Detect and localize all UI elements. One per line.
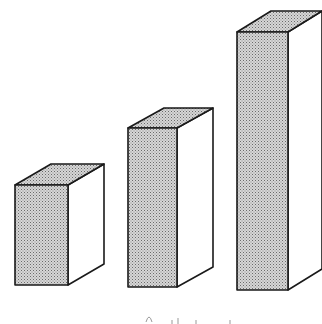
- bar-front-face: [15, 185, 68, 285]
- bar-1: [15, 164, 104, 285]
- bar-3: [237, 11, 322, 290]
- caption-fragment: [146, 317, 230, 324]
- bar-front-face: [128, 128, 177, 287]
- bar-side-face: [288, 11, 322, 290]
- bar-front-face: [237, 32, 288, 290]
- bar-side-face: [177, 108, 213, 287]
- bar-2: [128, 108, 213, 287]
- bar-chart-3d: [0, 0, 322, 324]
